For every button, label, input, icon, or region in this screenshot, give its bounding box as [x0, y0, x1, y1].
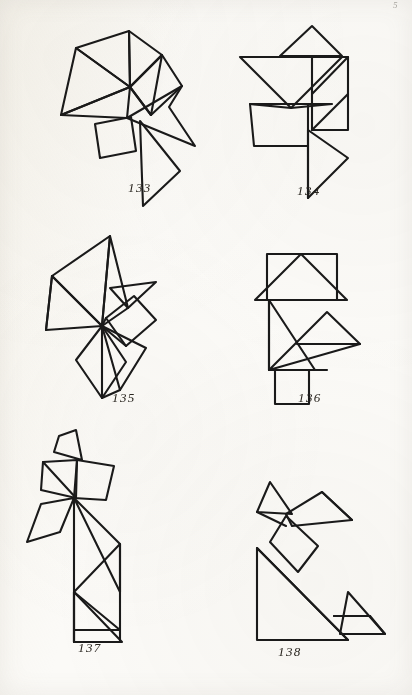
piece-triangle	[102, 236, 128, 326]
piece-divider	[312, 94, 348, 130]
figure-caption-138: 138	[278, 644, 302, 660]
figure-135	[22, 228, 197, 413]
figure-caption-135: 135	[112, 390, 136, 406]
piece-square	[74, 460, 114, 500]
page-folio-number: 5	[393, 1, 398, 8]
piece-large-triangle	[52, 236, 110, 326]
figure-138	[228, 462, 403, 647]
piece-divider	[312, 57, 348, 94]
figure-136-drawing	[236, 230, 386, 410]
piece-parallelogram	[27, 498, 74, 542]
tangram-pieces-135	[46, 236, 156, 398]
piece-divider	[322, 492, 352, 520]
piece-triangle	[74, 592, 122, 642]
piece-large-triangle	[74, 498, 120, 592]
figure-134	[228, 14, 403, 204]
figure-caption-134: 134	[297, 183, 321, 199]
piece-triangle	[110, 282, 156, 308]
tangram-pieces-136	[255, 254, 360, 404]
piece-triangle	[54, 430, 82, 460]
piece-square	[106, 296, 156, 346]
piece-triangle	[280, 26, 342, 56]
piece-large-triangle	[240, 57, 342, 108]
figure-133	[30, 14, 215, 199]
tangram-pieces-137	[27, 430, 122, 642]
piece-large-triangle	[286, 492, 352, 526]
figure-134-drawing	[228, 14, 403, 204]
figure-caption-133: 133	[128, 180, 152, 196]
tangram-pieces-134	[240, 26, 348, 198]
piece-large-triangle	[255, 254, 347, 300]
figure-138-drawing	[228, 462, 403, 647]
figure-133-drawing	[30, 14, 215, 199]
figure-caption-137: 137	[78, 640, 102, 656]
figure-135-drawing	[22, 228, 197, 413]
figure-136	[236, 230, 386, 410]
piece-divider	[46, 276, 52, 330]
piece-square	[250, 104, 308, 146]
piece-divider	[257, 548, 348, 640]
figure-137-drawing	[14, 424, 179, 649]
piece-triangle	[76, 31, 130, 87]
piece-large-triangle	[61, 48, 130, 115]
figure-137	[14, 424, 179, 649]
piece-square	[95, 117, 136, 158]
piece-triangle	[61, 87, 130, 118]
scanned-page: 5 133	[0, 0, 412, 695]
piece-square	[46, 276, 102, 330]
piece-triangle	[340, 592, 385, 634]
figure-caption-136: 136	[298, 390, 322, 406]
tangram-pieces-138	[257, 482, 385, 640]
piece-triangle	[257, 482, 292, 514]
